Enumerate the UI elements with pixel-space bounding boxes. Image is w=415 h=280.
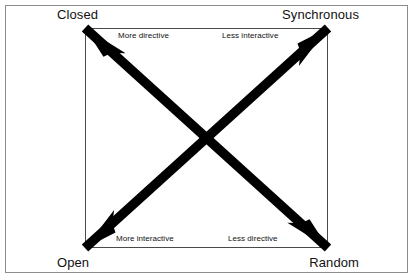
corner-label-open: Open (57, 256, 89, 269)
corner-label-synchronous: Synchronous (282, 8, 359, 21)
inner-label-more-interactive: More interactive (116, 235, 174, 243)
diagonal-arrows-group (0, 0, 415, 280)
inner-label-less-directive: Less directive (228, 235, 278, 243)
diagram-figure: Closed Synchronous Open Random More dire… (0, 0, 415, 280)
inner-label-less-interactive: Less interactive (222, 32, 278, 40)
inner-label-more-directive: More directive (118, 32, 169, 40)
corner-label-random: Random (309, 256, 359, 269)
corner-label-closed: Closed (57, 8, 98, 21)
